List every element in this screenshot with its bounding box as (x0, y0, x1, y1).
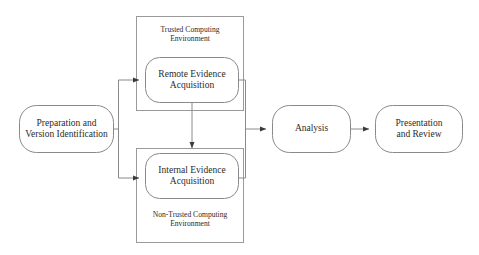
presentation-box[interactable] (376, 106, 463, 153)
preparation-box[interactable] (20, 106, 114, 153)
remote-evidence-box[interactable] (146, 58, 239, 103)
non-trusted-environment-caption: Non-Trusted Computing Environment (136, 210, 244, 228)
diagram-canvas: Preparation and Version Identification R… (0, 0, 479, 255)
analysis-box[interactable] (273, 106, 351, 153)
internal-evidence-box[interactable] (146, 154, 239, 199)
trusted-environment-caption: Trusted Computing Environment (136, 25, 244, 43)
